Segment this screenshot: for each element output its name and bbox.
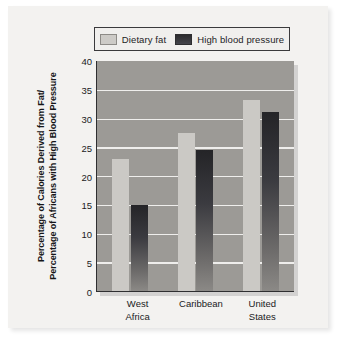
x-axis-tick-labels: West Africa Caribbean United States xyxy=(96,298,294,332)
legend-entry-high-blood-pressure: High blood pressure xyxy=(175,34,284,45)
y-tick-15: 15 xyxy=(66,200,92,211)
chart-legend: Dietary fat High blood pressure xyxy=(94,27,290,51)
y-axis-title-line-2: Percentage of Africans with High Blood P… xyxy=(47,57,59,295)
y-tick-30: 30 xyxy=(66,113,92,124)
bar-west-africa-dietary-fat xyxy=(112,159,129,291)
legend-label-dietary-fat: Dietary fat xyxy=(122,34,166,45)
bar-caribbean-high-blood-pressure xyxy=(196,150,213,291)
legend-swatch-icon-high-blood-pressure xyxy=(175,34,192,45)
y-axis-title-line-1: Percentage of Calories Derived from Fat/ xyxy=(36,57,48,295)
bars-layer xyxy=(97,61,294,291)
bar-united-states-dietary-fat xyxy=(243,100,260,291)
y-axis-tick-labels: 0 5 10 15 20 25 30 35 40 xyxy=(64,61,92,292)
x-tick-united-states-line-1: United xyxy=(249,298,276,311)
y-axis-title: Percentage of Calories Derived from Fat/… xyxy=(36,57,59,295)
y-tick-5: 5 xyxy=(66,258,92,269)
y-tick-40: 40 xyxy=(66,56,92,67)
x-tick-united-states: United States xyxy=(249,298,276,323)
x-tick-west-africa-line-2: Africa xyxy=(125,311,149,324)
figure-caption-partial xyxy=(10,347,160,352)
bar-united-states-high-blood-pressure xyxy=(262,112,279,291)
figure-container: Dietary fat High blood pressure Percenta… xyxy=(0,0,343,352)
y-tick-25: 25 xyxy=(66,142,92,153)
x-tick-united-states-line-2: States xyxy=(249,311,276,324)
y-tick-0: 0 xyxy=(66,287,92,298)
y-tick-35: 35 xyxy=(66,84,92,95)
y-tick-10: 10 xyxy=(66,229,92,240)
x-tick-west-africa-line-1: West xyxy=(125,298,149,311)
x-tick-caribbean-line-1: Caribbean xyxy=(179,298,223,311)
legend-swatch-icon-dietary-fat xyxy=(100,34,117,45)
x-tick-caribbean: Caribbean xyxy=(179,298,223,311)
chart-panel: Dietary fat High blood pressure Percenta… xyxy=(8,6,328,328)
x-tick-west-africa: West Africa xyxy=(125,298,149,323)
y-axis-title-container: Percentage of Calories Derived from Fat/… xyxy=(34,56,60,296)
bar-west-africa-high-blood-pressure xyxy=(131,205,148,291)
plot-area xyxy=(96,61,294,292)
legend-label-high-blood-pressure: High blood pressure xyxy=(197,34,284,45)
legend-entry-dietary-fat: Dietary fat xyxy=(100,34,166,45)
y-tick-20: 20 xyxy=(66,171,92,182)
bar-caribbean-dietary-fat xyxy=(178,133,195,291)
